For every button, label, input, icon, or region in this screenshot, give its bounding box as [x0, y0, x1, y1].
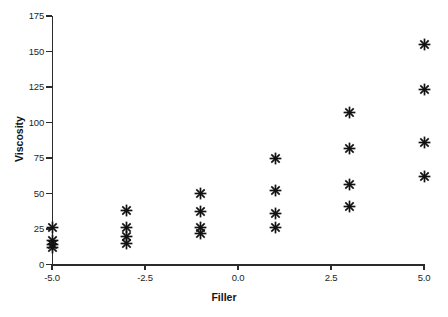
y-axis-title: Viscosity	[13, 94, 25, 184]
x-tick-mark	[423, 264, 424, 270]
data-point	[120, 237, 133, 250]
data-point	[194, 205, 207, 218]
x-tick-label: -5.0	[30, 272, 74, 283]
scatter-plot: 0255075100125150175 -5.0-2.50.02.55.0 Vi…	[0, 0, 448, 317]
data-point	[343, 178, 356, 191]
x-tick-mark	[330, 264, 331, 270]
x-tick-mark	[144, 264, 145, 270]
data-point	[194, 227, 207, 240]
y-tick-mark	[46, 157, 52, 158]
x-tick-label: 2.5	[309, 272, 353, 283]
y-tick-mark	[46, 122, 52, 123]
data-point	[269, 221, 282, 234]
x-tick-label: 0.0	[216, 272, 260, 283]
y-tick-mark	[46, 15, 52, 16]
y-tick-label: 25	[0, 223, 44, 234]
data-point	[343, 142, 356, 155]
y-tick-label: 125	[0, 81, 44, 92]
data-point	[418, 136, 431, 149]
data-point	[120, 204, 133, 217]
data-point	[343, 200, 356, 213]
y-tick-mark	[46, 86, 52, 87]
data-point	[418, 83, 431, 96]
x-axis-title: Filler	[0, 291, 448, 303]
data-point	[343, 106, 356, 119]
y-tick-mark	[46, 193, 52, 194]
data-point	[418, 170, 431, 183]
data-point	[269, 207, 282, 220]
y-tick-label: 0	[0, 259, 44, 270]
y-tick-label: 50	[0, 188, 44, 199]
data-point	[46, 241, 59, 254]
x-tick-label: 5.0	[402, 272, 446, 283]
data-point	[194, 187, 207, 200]
y-tick-label: 175	[0, 10, 44, 21]
x-tick-label: -2.5	[123, 272, 167, 283]
data-point	[269, 184, 282, 197]
data-point	[269, 152, 282, 165]
x-tick-mark	[237, 264, 238, 270]
data-point	[46, 221, 59, 234]
x-tick-mark	[51, 264, 52, 270]
y-tick-label: 150	[0, 46, 44, 57]
data-point	[418, 38, 431, 51]
y-tick-mark	[46, 51, 52, 52]
